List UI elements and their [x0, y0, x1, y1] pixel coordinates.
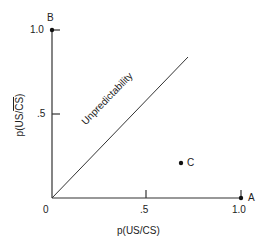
- y-axis-label: p(US/CS): [15, 75, 25, 155]
- point-a-label: A: [248, 193, 255, 203]
- point-c: [179, 161, 183, 165]
- x-tick-label-1: 1.0: [232, 205, 246, 215]
- y-tick-label-half: .5: [37, 109, 45, 119]
- y-label-suffix: ): [14, 94, 25, 97]
- y-tick-label-1: 1.0: [30, 25, 44, 35]
- x-tick-label-half: .5: [140, 205, 148, 215]
- point-a: [239, 196, 243, 200]
- point-b: [50, 28, 54, 32]
- x-axis-label: p(US/CS): [117, 226, 160, 236]
- point-b-label: B: [47, 13, 54, 23]
- y-label-cs-bar: CS: [14, 97, 25, 111]
- point-c-label: C: [187, 158, 194, 168]
- origin-label: 0: [43, 205, 49, 215]
- chart-canvas: [0, 0, 265, 243]
- y-label-prefix: p(US/: [14, 111, 25, 137]
